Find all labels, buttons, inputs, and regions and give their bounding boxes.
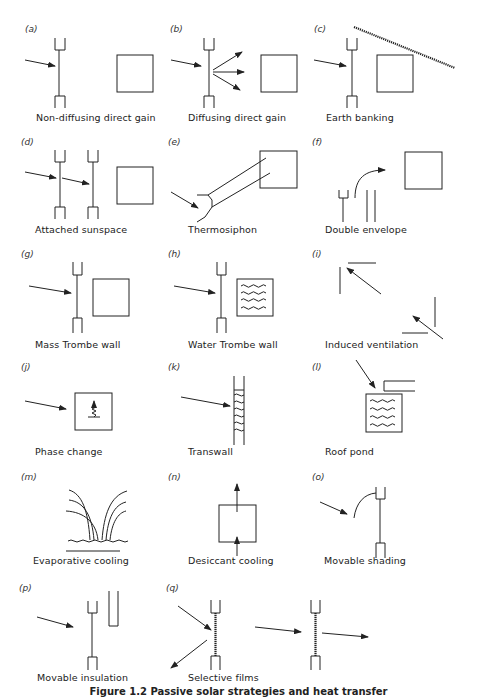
panel-j-drawing (25, 393, 112, 430)
panel-m-tag: (m) (21, 472, 37, 482)
panel-a-tag: (a) (25, 24, 38, 34)
panel-c-drawing (314, 27, 455, 108)
panel-p-label: Movable insulation (37, 672, 128, 683)
panel-k-drawing (181, 376, 244, 445)
panel-k-label: Transwall (188, 446, 233, 457)
panel-c-tag: (c) (314, 24, 326, 34)
panel-o-tag: (o) (312, 472, 325, 482)
panel-q-tag: (q) (166, 583, 179, 593)
panel-h-tag: (h) (168, 249, 181, 259)
panel-f-tag: (f) (312, 137, 322, 147)
panel-j-label: Phase change (35, 446, 103, 457)
panel-d-tag: (d) (21, 137, 34, 147)
panel-i-label: Induced ventilation (325, 339, 418, 350)
panel-f-drawing (339, 152, 442, 222)
panel-b-tag: (b) (170, 24, 183, 34)
panel-l-drawing (356, 360, 415, 432)
panel-m-drawing (66, 490, 128, 551)
panel-m-label: Evaporative cooling (33, 555, 129, 566)
panel-q-drawing (171, 600, 368, 670)
panel-b-drawing (171, 38, 297, 108)
panel-g-tag: (g) (21, 249, 34, 259)
panel-j-tag: (j) (21, 362, 31, 372)
panel-f-label: Double envelope (325, 224, 407, 235)
panel-d-label: Attached sunspace (35, 224, 127, 235)
panel-i-tag: (i) (312, 249, 322, 259)
panel-g-label: Mass Trombe wall (35, 339, 120, 350)
panel-p-drawing (37, 591, 118, 670)
panel-h-drawing (174, 262, 273, 333)
panel-q-label: Selective films (188, 672, 259, 683)
panel-e-tag: (e) (168, 137, 181, 147)
panel-n-label: Desiccant cooling (188, 555, 274, 566)
panel-e-label: Thermosiphon (188, 224, 257, 235)
panel-c-label: Earth banking (326, 112, 394, 123)
panel-d-drawing (25, 150, 153, 219)
panel-n-tag: (n) (168, 472, 181, 482)
panel-a-drawing (25, 38, 153, 108)
panel-l-tag: (l) (312, 362, 322, 372)
panel-i-drawing (340, 263, 443, 339)
panel-h-label: Water Trombe wall (188, 339, 278, 350)
panel-b-label: Diffusing direct gain (188, 112, 286, 123)
panel-g-drawing (29, 262, 129, 333)
panel-o-label: Movable shading (324, 555, 406, 566)
panel-l-label: Roof pond (325, 446, 374, 457)
panel-o-drawing (320, 487, 385, 558)
panel-k-tag: (k) (168, 362, 180, 372)
panel-e-drawing (171, 151, 297, 222)
panel-a-label: Non-diffusing direct gain (36, 112, 156, 123)
figure-caption: Figure 1.2 Passive solar strategies and … (0, 686, 477, 697)
panel-p-tag: (p) (19, 583, 32, 593)
panel-n-drawing (219, 484, 256, 556)
